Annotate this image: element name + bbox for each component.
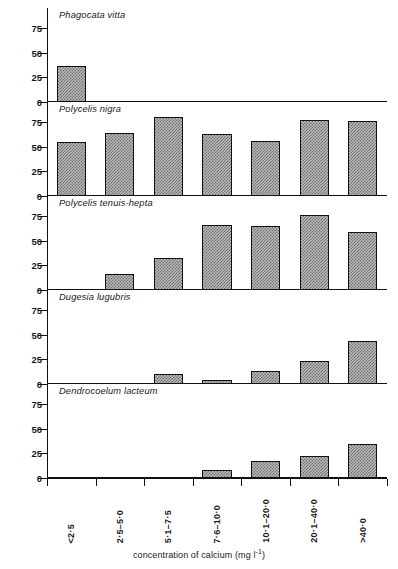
bar xyxy=(202,225,231,290)
panel-stack: Phagocata vitta0255075Polycelis nigra025… xyxy=(47,8,387,478)
x-category-label: 20·1–40·0 xyxy=(309,499,319,543)
bar xyxy=(300,361,329,384)
bar xyxy=(251,141,280,196)
x-axis-title-suffix: ) xyxy=(262,550,265,560)
bar xyxy=(105,133,134,196)
y-tick-label: 0 xyxy=(37,379,42,390)
x-tick-mark xyxy=(144,479,145,486)
y-tick-label: 25 xyxy=(31,354,42,365)
bar xyxy=(348,444,377,478)
bar xyxy=(105,274,134,290)
bar xyxy=(154,258,183,290)
bar xyxy=(348,121,377,196)
plot-area xyxy=(47,18,387,102)
x-axis-title-prefix: concentration of calcium (mg l xyxy=(133,550,256,560)
bar xyxy=(348,232,377,290)
bar xyxy=(57,66,86,102)
x-category-label: 5·1–7·5 xyxy=(163,510,173,543)
bar xyxy=(300,120,329,196)
x-tick-mark xyxy=(338,479,339,486)
panel-dendrocoelum-lacteum: Dendrocoelum lacteum0255075 xyxy=(47,384,387,478)
x-category-label: 10·1–20·0 xyxy=(261,499,271,543)
y-axis-line xyxy=(47,8,48,478)
x-tick-mark xyxy=(387,479,388,486)
x-category-label: <2·5 xyxy=(66,524,76,543)
y-tick-label: 0 xyxy=(37,97,42,108)
x-axis-category-labels: <2·52·5–5·05·1–7·57·6–10·010·1–20·020·1–… xyxy=(47,487,387,543)
y-tick-label: 75 xyxy=(31,116,42,127)
y-tick-label: 50 xyxy=(31,329,42,340)
panel-polycelis-nigra: Polycelis nigra0255075 xyxy=(47,102,387,196)
x-tick-mark xyxy=(290,479,291,486)
y-tick-label: 0 xyxy=(37,285,42,296)
x-tick-mark xyxy=(47,479,48,486)
bar xyxy=(154,117,183,196)
x-axis-title: concentration of calcium (mg l-1) xyxy=(0,548,398,560)
figure-planarian-calcium-distribution: percentage occurrence Phagocata vitta025… xyxy=(0,0,398,569)
bar xyxy=(202,134,231,196)
y-tick-label: 75 xyxy=(31,22,42,33)
x-tick-mark xyxy=(193,479,194,486)
y-axis-title: percentage occurrence xyxy=(3,0,21,38)
y-tick-label: 25 xyxy=(31,72,42,83)
bar xyxy=(251,461,280,478)
bar xyxy=(348,341,377,384)
plot-area xyxy=(47,300,387,384)
y-tick-label: 25 xyxy=(31,166,42,177)
plot-area xyxy=(47,206,387,290)
y-tick-label: 25 xyxy=(31,448,42,459)
bar xyxy=(251,226,280,290)
x-category-label: 7·6–10·0 xyxy=(212,505,222,543)
x-tick-mark xyxy=(241,479,242,486)
y-tick-label: 50 xyxy=(31,141,42,152)
panel-phagocata-vitta: Phagocata vitta0255075 xyxy=(47,8,387,102)
x-category-label: 2·5–5·0 xyxy=(115,510,125,543)
bar xyxy=(300,215,329,290)
y-tick-label: 50 xyxy=(31,423,42,434)
panel-dugesia-lugubris: Dugesia lugubris0255075 xyxy=(47,290,387,384)
y-tick-label: 75 xyxy=(31,398,42,409)
x-axis-line xyxy=(47,478,387,479)
y-tick-label: 75 xyxy=(31,210,42,221)
plot-area xyxy=(47,112,387,196)
y-tick-label: 25 xyxy=(31,260,42,271)
y-tick-label: 50 xyxy=(31,235,42,246)
x-tick-mark xyxy=(96,479,97,486)
y-tick-label: 75 xyxy=(31,304,42,315)
y-tick-label: 0 xyxy=(37,191,42,202)
bar xyxy=(57,142,86,196)
y-tick-label: 0 xyxy=(37,473,42,484)
x-category-label: >40·0 xyxy=(358,518,368,543)
bar xyxy=(300,456,329,478)
y-tick-label: 50 xyxy=(31,47,42,58)
y-axis-title-holder: percentage occurrence xyxy=(4,38,22,468)
panel-polycelis-tenuis-hepta: Polycelis tenuis-hepta0255075 xyxy=(47,196,387,290)
plot-area xyxy=(47,394,387,478)
